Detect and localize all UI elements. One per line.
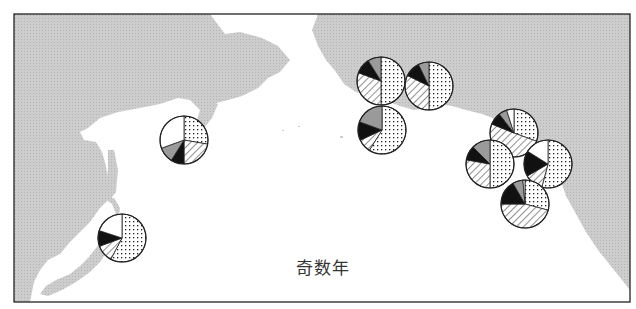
pie-alaska-west-lower bbox=[358, 106, 406, 154]
pie-kamchatka bbox=[160, 116, 208, 164]
pie-gulf-lower bbox=[501, 180, 549, 228]
pie-alaska-west-right bbox=[405, 62, 453, 110]
pie-japan bbox=[98, 214, 146, 262]
pie-gulf-left bbox=[466, 140, 514, 188]
map-caption: 奇数年 bbox=[296, 254, 350, 279]
pie-alaska-west-upper bbox=[357, 57, 405, 105]
